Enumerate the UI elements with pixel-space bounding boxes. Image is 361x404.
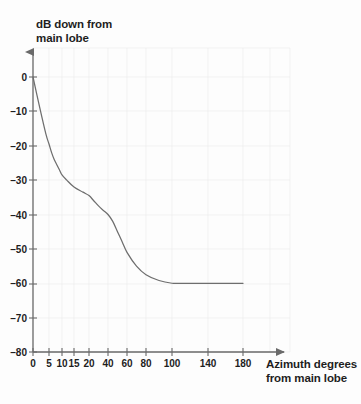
y-tick-label: –40 bbox=[10, 209, 27, 220]
x-tick-label: 140 bbox=[200, 358, 217, 369]
y-tick-label: –70 bbox=[10, 312, 27, 323]
x-tick-label: 15 bbox=[68, 358, 79, 369]
x-tick-label: 5 bbox=[46, 358, 52, 369]
antenna-pattern-figure: dB down from main lobe Azimuth degrees f… bbox=[0, 0, 361, 404]
x-tick-label: 0 bbox=[30, 358, 36, 369]
y-tick-label: –60 bbox=[10, 278, 27, 289]
x-tick-label: 100 bbox=[164, 358, 181, 369]
y-tick-label: 0 bbox=[21, 72, 27, 83]
chart-canvas bbox=[0, 0, 361, 404]
x-axis-title: Azimuth degrees from main lobe bbox=[266, 358, 357, 385]
x-tick-label: 60 bbox=[121, 358, 132, 369]
plot-background bbox=[0, 0, 361, 404]
x-tick-label: 20 bbox=[83, 358, 94, 369]
y-tick-label: –50 bbox=[10, 243, 27, 254]
y-tick-label: –80 bbox=[10, 347, 27, 358]
y-tick-label: –10 bbox=[10, 106, 27, 117]
x-tick-label: 180 bbox=[235, 358, 252, 369]
x-tick-label: 10 bbox=[56, 358, 67, 369]
x-tick-label: 80 bbox=[140, 358, 151, 369]
x-tick-label: 40 bbox=[102, 358, 113, 369]
y-tick-label: –20 bbox=[10, 140, 27, 151]
y-axis-title: dB down from main lobe bbox=[36, 18, 112, 45]
y-tick-label: –30 bbox=[10, 175, 27, 186]
